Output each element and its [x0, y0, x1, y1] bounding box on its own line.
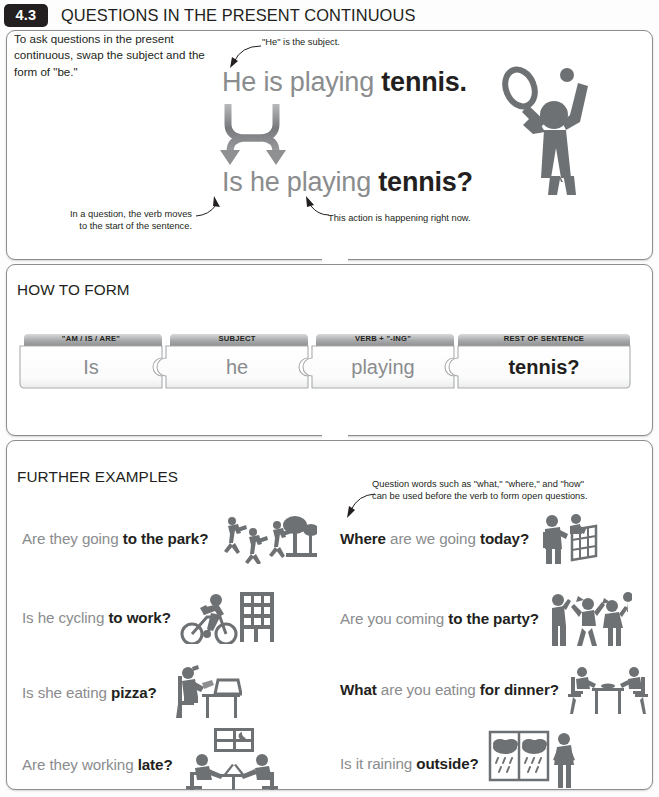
intro-paragraph: To ask questions in the present continuo…	[14, 31, 210, 80]
example-question: Is he playing tennis?	[222, 167, 473, 198]
person-eating-desk-icon	[166, 664, 242, 720]
example-text-raining: Is it raining outside?	[340, 755, 479, 772]
example-late-bold: late?	[138, 756, 173, 773]
callout-now-pointer-icon	[302, 196, 330, 218]
example-late-gray: Are they working	[22, 756, 138, 773]
example-text-pizza: Is she eating pizza?	[22, 684, 157, 701]
puzzle-slot-subject: SUBJECT he	[166, 330, 308, 392]
callout-question-words: Question words such as "what," "where," …	[372, 478, 588, 503]
page-header: 4.3 QUESTIONS IN THE PRESENT CONTINUOUS	[4, 2, 655, 28]
example-raining-bold: outside?	[416, 755, 478, 772]
callout-verb-pointer-icon	[195, 196, 225, 218]
puzzle-slot-am-is-are: "AM / IS / ARE" Is	[20, 330, 162, 392]
example-text-working-late: Are they working late?	[22, 756, 173, 773]
page-title: QUESTIONS IN THE PRESENT CONTINUOUS	[61, 6, 415, 25]
example-row-pizza: Is she eating pizza?	[22, 664, 242, 720]
example-raining-gray: Is it raining	[340, 755, 416, 772]
panel-notch-top	[322, 254, 348, 264]
further-examples-title: FURTHER EXAMPLES	[17, 468, 178, 486]
panel-notch-middle	[322, 430, 348, 440]
puzzle-word-3: playing	[312, 356, 454, 379]
puzzle-label-4: REST OF SENTENCE	[458, 334, 630, 343]
example-dinner-gray: are you eating	[377, 681, 480, 698]
statement-gray: He is playing	[222, 67, 381, 97]
example-park-bold: to the park?	[123, 530, 209, 547]
puzzle-word-1: Is	[20, 356, 162, 379]
callout-verb-moves-line1: In a question, the verb moves	[30, 208, 192, 220]
example-park-gray: Are they going	[22, 530, 123, 547]
chapter-number-badge: 4.3	[4, 4, 48, 27]
rain-window-icon	[488, 730, 578, 788]
example-row-dinner: What are you eating for dinner?	[340, 664, 648, 714]
people-running-park-icon	[217, 512, 317, 564]
dinner-table-icon	[568, 664, 648, 714]
puzzle-slot-verb-ing: VERB + "-ING" playing	[312, 330, 454, 392]
example-row-park: Are they going to the park?	[22, 512, 317, 564]
puzzle-word-2: he	[166, 356, 308, 379]
cyclist-office-icon	[180, 590, 276, 644]
callout-verb-moves-line2: to the start of the sentence.	[30, 220, 192, 232]
example-row-going-today: Where are we going today?	[340, 512, 598, 564]
grammar-page: 4.3 QUESTIONS IN THE PRESENT CONTINUOUS …	[0, 0, 659, 797]
example-row-cycling: Is he cycling to work?	[22, 590, 276, 644]
example-row-working-late: Are they working late?	[22, 738, 280, 790]
example-pizza-gray: Is she eating	[22, 684, 111, 701]
example-cycling-gray: Is he cycling	[22, 609, 108, 626]
question-gray: Is he playing	[222, 167, 378, 197]
puzzle-label-3: VERB + "-ING"	[312, 334, 454, 343]
example-today-lead: Where	[340, 530, 386, 547]
question-bold: tennis?	[378, 167, 473, 197]
puzzle-label-2: SUBJECT	[166, 334, 308, 343]
example-pizza-bold: pizza?	[111, 684, 157, 701]
example-statement: He is playing tennis.	[222, 67, 467, 98]
example-cycling-bold: to work?	[108, 609, 170, 626]
office-night-meeting-icon	[182, 728, 280, 790]
swap-arrows-icon	[218, 104, 302, 166]
example-text-going-today: Where are we going today?	[340, 530, 529, 547]
callout-question-words-line2: can be used before the verb to form open…	[372, 490, 588, 502]
callout-subject: "He" is the subject.	[262, 36, 340, 48]
tennis-player-icon	[492, 58, 608, 182]
example-today-gray: are we going	[386, 530, 480, 547]
how-to-form-title: HOW TO FORM	[17, 281, 130, 299]
tourist-map-icon	[538, 512, 598, 564]
example-party-bold: to the party?	[448, 610, 539, 627]
callout-question-words-line1: Question words such as "what," "where," …	[372, 478, 588, 490]
example-text-cycling: Is he cycling to work?	[22, 609, 171, 626]
party-people-icon	[548, 590, 632, 646]
example-text-dinner: What are you eating for dinner?	[340, 681, 559, 698]
example-text-party: Are you coming to the party?	[340, 610, 539, 627]
example-row-party: Are you coming to the party?	[340, 590, 632, 646]
example-dinner-bold: for dinner?	[480, 681, 559, 698]
example-party-gray: Are you coming	[340, 610, 448, 627]
example-text-park: Are they going to the park?	[22, 530, 208, 547]
callout-subject-pointer-icon	[227, 44, 263, 70]
puzzle-label-1: "AM / IS / ARE"	[20, 334, 162, 343]
example-dinner-lead: What	[340, 681, 377, 698]
puzzle-word-4: tennis?	[458, 356, 630, 379]
callout-verb-moves: In a question, the verb moves to the sta…	[30, 208, 192, 233]
callout-right-now: This action is happening right now.	[328, 212, 471, 224]
statement-bold: tennis.	[381, 67, 467, 97]
example-row-raining: Is it raining outside?	[340, 738, 578, 788]
puzzle-slot-rest-of-sentence: REST OF SENTENCE tennis?	[458, 330, 630, 392]
example-today-bold: today?	[480, 530, 529, 547]
